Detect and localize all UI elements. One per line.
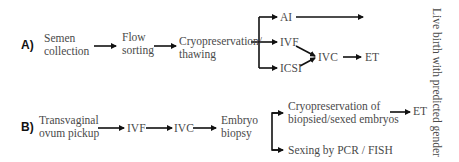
diagram-canvas: A) Semen collection Flow sorting Cryopre…: [0, 0, 459, 162]
node-transvaginal-ovum-pickup: Transvaginal ovum pickup: [39, 114, 99, 140]
arrow-icsi-to-ivc: [300, 58, 315, 66]
node-ai: AI: [280, 11, 292, 24]
node-ivc: IVC: [318, 51, 338, 64]
bracket-b: [272, 113, 280, 150]
node-embryo-biopsy: Embryo biopsy: [221, 114, 258, 140]
node-semen-collection: Semen collection: [44, 32, 89, 58]
node-ivc-b: IVC: [174, 122, 194, 135]
node-cryopreservation-thawing: Cryopreservation/ thawing: [179, 35, 262, 61]
node-ivf: IVF: [280, 36, 299, 49]
node-ivf-b: IVF: [127, 122, 146, 135]
node-cryopreservation-sexed-embryos: Cryopreservation of biopsied/sexed embry…: [288, 100, 399, 126]
node-flow-sorting: Flow sorting: [122, 31, 154, 57]
panel-b-label: B): [21, 120, 34, 134]
outcome-live-birth: Live birth with predicted gender: [431, 8, 443, 157]
arrow-ivf-to-ivc: [296, 46, 315, 56]
node-icsi: ICSI: [280, 62, 302, 75]
node-et-b: ET: [413, 105, 427, 118]
panel-a-label: A): [21, 38, 34, 52]
node-sexing-pcr-fish: Sexing by PCR / FISH: [288, 144, 393, 157]
node-et: ET: [365, 51, 379, 64]
